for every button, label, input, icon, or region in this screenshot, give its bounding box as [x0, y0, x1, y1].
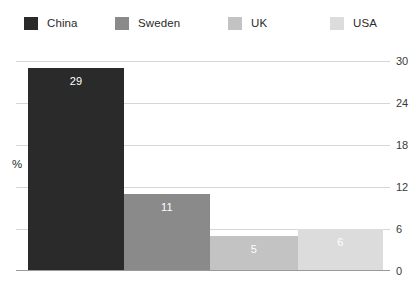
y-tick-24: 24 [396, 98, 408, 109]
y-tick-30: 30 [396, 56, 408, 67]
bar-value-china: 29 [28, 75, 124, 87]
legend-item-sweden[interactable]: Sweden [115, 15, 180, 31]
chart-legend: China Sweden UK USA [0, 0, 419, 45]
y-tick-12: 12 [396, 182, 408, 193]
bar-uk[interactable]: 5 [210, 236, 298, 271]
bar-chart: China Sweden UK USA % 291156 0612182430 [0, 0, 419, 290]
plot-area: 291156 [16, 61, 390, 271]
bar-usa[interactable]: 6 [298, 229, 383, 271]
y-tick-6: 6 [396, 224, 402, 235]
y-tick-0: 0 [396, 266, 402, 277]
legend-label-uk: UK [251, 17, 267, 30]
bar-value-sweden: 11 [124, 201, 210, 213]
legend-swatch-sweden [115, 17, 129, 30]
bar-group: 291156 [16, 61, 390, 271]
legend-label-china: China [47, 17, 78, 30]
bar-value-uk: 5 [210, 243, 298, 255]
bar-china[interactable]: 29 [28, 68, 124, 271]
legend-item-usa[interactable]: USA [330, 15, 377, 31]
legend-swatch-usa [330, 17, 344, 30]
legend-label-sweden: Sweden [138, 17, 180, 30]
legend-swatch-uk [228, 17, 242, 30]
legend-swatch-china [24, 17, 38, 30]
x-axis-line [16, 270, 390, 271]
legend-label-usa: USA [353, 17, 377, 30]
y-tick-18: 18 [396, 140, 408, 151]
bar-sweden[interactable]: 11 [124, 194, 210, 271]
legend-item-uk[interactable]: UK [228, 15, 267, 31]
bar-value-usa: 6 [298, 236, 383, 248]
legend-item-china[interactable]: China [24, 15, 78, 31]
